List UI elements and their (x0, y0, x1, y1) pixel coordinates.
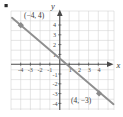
point-annotation-upper: (−4, 4) (24, 11, 45, 20)
x-axis-label: x (116, 60, 121, 70)
x-tick-label: -4 (18, 66, 23, 73)
y-tick-label: 2 (53, 41, 56, 48)
y-tick-label: -1 (52, 71, 57, 78)
point-annotation-lower: (4, −3) (71, 96, 92, 105)
graph-canvas: -4 -3 -2 -1 1 2 3 4 4 3 2 1 -1 -2 -3 -4 (0, 0, 123, 117)
y-tick-label: -3 (52, 90, 57, 97)
x-tick-label: -3 (28, 66, 33, 73)
corner-bullet-icon (5, 4, 8, 7)
y-axis-label: y (50, 1, 55, 11)
y-tick-label: 4 (53, 21, 56, 28)
x-tick-label: 2 (78, 66, 81, 73)
x-tick-label: 4 (97, 66, 100, 73)
x-tick-label: 3 (88, 66, 91, 73)
x-tick-label: -2 (38, 66, 43, 73)
coordinate-plane-figure: -4 -3 -2 -1 1 2 3 4 4 3 2 1 -1 -2 -3 -4 (0, 0, 123, 117)
y-tick-label: -4 (52, 100, 57, 107)
y-tick-label: 3 (53, 31, 56, 38)
y-tick-label: -2 (52, 80, 57, 87)
